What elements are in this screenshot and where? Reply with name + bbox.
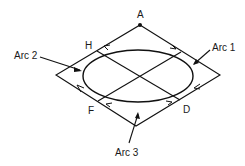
leader-arrow-arc-3 — [135, 112, 140, 119]
leader-arc-3 — [129, 114, 138, 143]
label-h: H — [85, 40, 92, 51]
arrow-marker-bottom-left — [106, 103, 112, 107]
line-h-to-d — [97, 51, 180, 100]
leader-arrow-arc-2 — [74, 67, 82, 72]
point-a-dot — [138, 23, 142, 27]
label-arc-1: Arc 1 — [212, 42, 236, 53]
label-arc-3: Arc 3 — [115, 147, 139, 158]
arrow-marker-upper-left — [104, 45, 110, 50]
label-a: A — [137, 9, 144, 20]
inscribed-ellipse — [83, 50, 193, 102]
label-f: F — [88, 105, 94, 116]
label-d: D — [183, 104, 190, 115]
label-arc-2: Arc 2 — [14, 50, 38, 61]
diagram-canvas: A H D F Arc 1 Arc 2 Arc 3 — [0, 0, 245, 166]
